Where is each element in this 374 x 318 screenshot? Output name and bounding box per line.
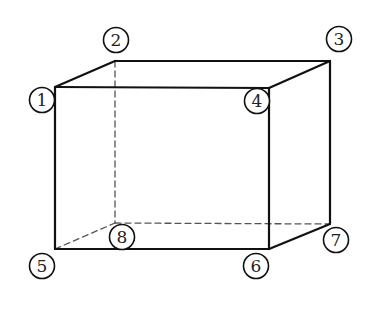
vertex-label-6: 6 <box>244 254 269 279</box>
vertex-number: 5 <box>37 256 48 276</box>
hidden-edges <box>55 61 330 249</box>
vertex-label-8: 8 <box>110 225 135 250</box>
vertex-label-7: 7 <box>324 228 349 253</box>
vertex-number: 4 <box>252 91 263 111</box>
rectangular-prism-diagram: 12345678 <box>0 0 374 318</box>
edge-6-7 <box>269 224 330 249</box>
vertex-number: 2 <box>111 30 122 50</box>
vertex-label-3: 3 <box>327 27 352 52</box>
edge-3-4 <box>269 61 330 88</box>
hidden-edge-5-8 <box>55 223 115 249</box>
vertex-label-1: 1 <box>30 88 55 113</box>
edge-1-2 <box>55 61 115 87</box>
edge-1-4 <box>55 87 269 88</box>
vertex-number: 8 <box>117 227 128 247</box>
vertex-label-2: 2 <box>104 28 129 53</box>
vertex-label-4: 4 <box>245 89 270 114</box>
visible-edges <box>55 61 330 249</box>
vertex-number: 1 <box>37 90 48 110</box>
vertex-number: 6 <box>251 256 262 276</box>
prism-drawing: 12345678 <box>0 0 374 318</box>
vertex-number: 7 <box>331 230 342 250</box>
hidden-edge-8-7 <box>115 223 330 224</box>
vertex-number: 3 <box>334 29 345 49</box>
vertex-label-5: 5 <box>30 254 55 279</box>
vertex-labels: 12345678 <box>30 27 352 279</box>
